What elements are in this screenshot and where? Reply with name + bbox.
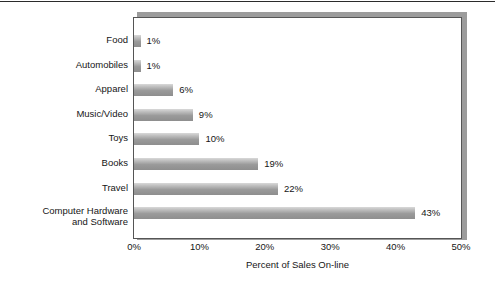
bar-value-label: 1% (147, 35, 161, 47)
category-label: Computer Hardware and Software (0, 205, 128, 227)
x-axis-title: Percent of Sales On-line (133, 259, 462, 270)
bar (134, 183, 278, 195)
category-label: Books (0, 157, 128, 168)
x-axis-tick-labels: 0%10%20%30%40%50% (0, 241, 495, 255)
bar-value-label: 22% (284, 183, 303, 195)
category-label: Music/Video (0, 108, 128, 119)
bar-row: Travel22% (0, 182, 495, 206)
category-label: Apparel (0, 83, 128, 94)
bar-value-label: 19% (264, 158, 283, 170)
bar (134, 84, 173, 96)
category-label: Automobiles (0, 59, 128, 70)
bar (134, 60, 141, 72)
bar (134, 207, 415, 219)
bar-row: Computer Hardware and Software43% (0, 206, 495, 230)
bar-row: Music/Video9% (0, 108, 495, 132)
category-label: Toys (0, 132, 128, 143)
bar (134, 158, 258, 170)
bar-row: Toys10% (0, 132, 495, 156)
x-tick-label: 40% (386, 241, 405, 253)
category-label: Food (0, 34, 128, 45)
bar-row: Apparel6% (0, 83, 495, 107)
bar-row: Food1% (0, 34, 495, 58)
x-tick-label: 0% (127, 241, 141, 253)
bar-value-label: 6% (179, 84, 193, 96)
bar-chart-figure: Food1%Automobiles1%Apparel6%Music/Video9… (0, 0, 495, 290)
bar-value-label: 1% (147, 60, 161, 72)
bar (134, 133, 199, 145)
x-tick-label: 50% (451, 241, 470, 253)
bar-value-label: 43% (421, 207, 440, 219)
bar-row: Automobiles1% (0, 59, 495, 83)
bar (134, 109, 193, 121)
bar-value-label: 10% (205, 133, 224, 145)
category-label: Travel (0, 182, 128, 193)
bar-value-label: 9% (199, 109, 213, 121)
x-tick-label: 30% (321, 241, 340, 253)
x-tick-label: 20% (255, 241, 274, 253)
x-tick-label: 10% (190, 241, 209, 253)
bar-row: Books19% (0, 157, 495, 181)
bar (134, 35, 141, 47)
